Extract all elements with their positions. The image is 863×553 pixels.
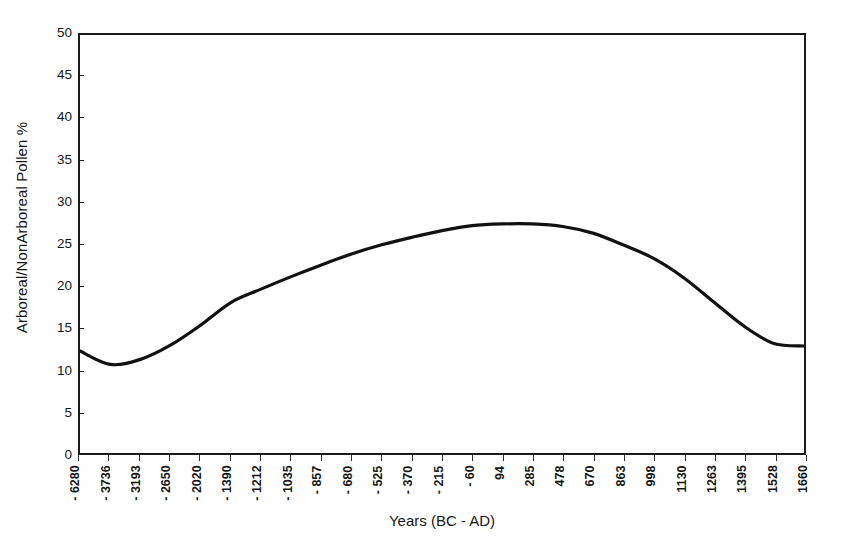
- x-tick-mark: [351, 455, 352, 461]
- x-tick-label-text: - 1035: [280, 465, 294, 500]
- x-tick-mark: [563, 455, 564, 461]
- x-tick-label-text: 1130: [675, 465, 689, 492]
- x-tick-label-text: 94: [493, 466, 507, 480]
- x-tick-label-text: - 370: [402, 465, 416, 494]
- x-tick-label-text: 1263: [705, 465, 719, 493]
- x-tick-mark: [503, 455, 504, 461]
- x-tick-mark: [108, 455, 109, 461]
- x-tick-label-text: 285: [523, 465, 537, 486]
- x-tick-label-text: - 215: [432, 465, 446, 494]
- y-tick-label: 50: [42, 26, 72, 40]
- y-tick-label: 30: [42, 195, 72, 209]
- x-tick-mark: [412, 455, 413, 461]
- x-tick-mark: [78, 455, 79, 461]
- y-tick-mark: [78, 202, 84, 203]
- x-tick-mark: [533, 455, 534, 461]
- y-tick-label: 25: [42, 237, 72, 251]
- x-tick-label-text: 1528: [766, 465, 780, 493]
- y-axis-title-text: Arboreal/NonArboreal Pollen %: [14, 122, 31, 333]
- x-tick-mark: [230, 455, 231, 461]
- x-tick-mark: [472, 455, 473, 461]
- x-axis-title: Years (BC - AD): [78, 512, 806, 529]
- y-tick-mark: [78, 328, 84, 329]
- x-tick-label-text: - 60: [462, 465, 476, 487]
- y-tick-label: 5: [42, 406, 72, 420]
- y-tick-mark: [78, 160, 84, 161]
- y-tick-mark: [78, 286, 84, 287]
- y-tick-mark: [78, 117, 84, 118]
- pollen-line-series: [80, 35, 804, 453]
- x-tick-label-text: - 6280: [68, 465, 82, 500]
- x-tick-label-text: 478: [553, 465, 567, 486]
- x-tick-label-text: - 2020: [189, 465, 203, 500]
- x-tick-mark: [199, 455, 200, 461]
- x-tick-label-text: - 857: [311, 465, 325, 494]
- y-axis-tick-labels: 05101520253035404550: [38, 33, 72, 455]
- x-tick-mark: [321, 455, 322, 461]
- x-tick-label-text: - 1212: [250, 465, 264, 500]
- y-tick-label: 40: [42, 111, 72, 125]
- plot-area: [78, 33, 806, 455]
- y-tick-label: 20: [42, 279, 72, 293]
- series-path: [80, 224, 804, 365]
- x-tick-mark: [776, 455, 777, 461]
- x-tick-mark: [260, 455, 261, 461]
- x-tick-label-text: 1660: [796, 465, 810, 493]
- x-tick-mark: [139, 455, 140, 461]
- x-tick-mark: [169, 455, 170, 461]
- x-tick-label-text: 863: [614, 465, 628, 486]
- y-tick-label: 15: [42, 322, 72, 336]
- y-tick-mark: [78, 244, 84, 245]
- x-tick-label-text: 1395: [735, 465, 749, 493]
- x-tick-label-text: - 2650: [159, 465, 173, 500]
- x-tick-mark: [745, 455, 746, 461]
- x-tick-label-text: - 3736: [98, 465, 112, 500]
- x-tick-mark: [624, 455, 625, 461]
- x-tick-mark: [442, 455, 443, 461]
- x-tick-mark: [715, 455, 716, 461]
- x-tick-label-text: - 525: [371, 465, 385, 494]
- y-tick-mark: [78, 75, 84, 76]
- x-tick-label-text: - 680: [341, 465, 355, 494]
- x-tick-label-text: 670: [584, 465, 598, 486]
- y-tick-label: 0: [42, 448, 72, 462]
- x-tick-label-text: 998: [644, 465, 658, 486]
- x-tick-label-text: - 1390: [220, 465, 234, 500]
- y-tick-mark: [78, 413, 84, 414]
- x-tick-mark: [381, 455, 382, 461]
- y-tick-label: 35: [42, 153, 72, 167]
- y-tick-label: 10: [42, 364, 72, 378]
- x-tick-mark: [685, 455, 686, 461]
- x-tick-mark: [654, 455, 655, 461]
- x-tick-mark: [290, 455, 291, 461]
- plot-inner: [80, 35, 804, 453]
- x-tick-mark: [594, 455, 595, 461]
- y-tick-mark: [78, 371, 84, 372]
- x-tick-label-text: - 3193: [129, 465, 143, 500]
- pollen-percentage-chart: Arboreal/NonArboreal Pollen % 0510152025…: [0, 0, 863, 553]
- x-tick-mark: [806, 455, 807, 461]
- y-tick-label: 45: [42, 68, 72, 82]
